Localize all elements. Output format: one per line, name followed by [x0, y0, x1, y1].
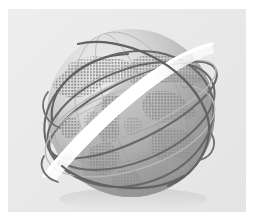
- artwork-root: [0, 0, 254, 222]
- globe-illustration: [0, 0, 254, 222]
- artwork-caption: [0, 221, 254, 222]
